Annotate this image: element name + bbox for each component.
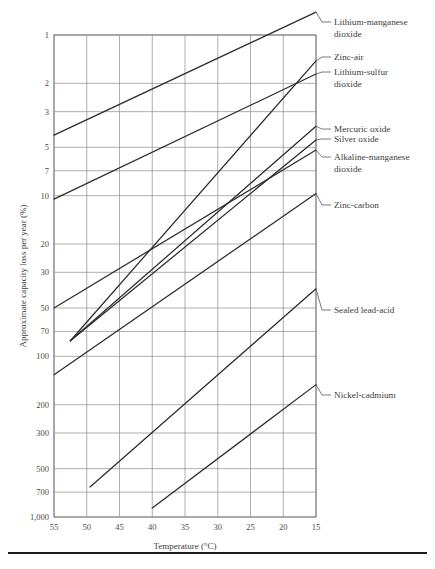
series-line [90,289,316,487]
y-tick-label: 200 [36,400,49,410]
y-tick-label: 1 [45,30,49,40]
series-label: Lithium-sulfur [334,67,388,77]
y-axis-title: Approximate capacity loss per year (%) [18,204,28,347]
y-tick-label: 3 [45,107,49,117]
series-label: Sealed lead-acid [334,305,395,315]
y-tick-label: 70 [41,326,50,336]
x-tick-label: 55 [50,522,59,532]
series-leader-lines-layer [316,12,331,395]
x-axis-title: Temperature (°C) [153,541,216,551]
leader-line [316,126,322,129]
series-label: Zinc-carbon [334,200,379,210]
leader-line [316,72,322,74]
grid-layer [54,35,316,517]
series-line [70,140,316,341]
series-label: Alkaline-manganese [334,152,410,162]
y-tick-label: 100 [36,351,49,361]
y-tick-label: 7 [45,166,49,176]
y-tick-label: 30 [41,267,50,277]
y-tick-label: 500 [36,464,49,474]
x-tick-label: 25 [246,522,255,532]
series-label: dioxide [334,164,362,174]
y-axis-tick-labels: 1235710203050701002003005007001,000 [30,30,49,522]
y-tick-label: 20 [41,239,50,249]
series-label: Mercuric oxide [334,124,390,134]
y-tick-label: 10 [41,191,50,201]
series-line [152,385,316,508]
series-label: dioxide [334,79,362,89]
x-tick-label: 15 [312,522,321,532]
series-label: Lithium-manganese [334,17,407,27]
capacity-loss-chart: 1235710203050701002003005007001,000 5550… [0,0,435,569]
series-label: Zinc-air [334,52,364,62]
leader-line [316,150,322,157]
series-line [70,61,316,341]
y-tick-label: 300 [36,428,49,438]
y-tick-label: 5 [45,142,49,152]
leader-line [316,289,322,310]
y-tick-label: 700 [36,487,49,497]
series-labels-layer: Lithium-manganesedioxideZinc-airLithium-… [334,17,410,400]
leader-line [316,57,322,61]
y-tick-label: 1,000 [30,512,49,522]
y-tick-label: 50 [41,303,50,313]
figure-container: 1235710203050701002003005007001,000 5550… [0,0,435,569]
series-label: Silver oxide [334,134,379,144]
x-tick-label: 35 [181,522,190,532]
y-tick-label: 2 [45,78,49,88]
x-tick-label: 40 [148,522,157,532]
x-tick-label: 45 [115,522,124,532]
series-label: Nickel-cadmium [334,390,396,400]
leader-line [316,385,322,395]
x-tick-label: 50 [83,522,92,532]
leader-line [316,139,322,140]
series-label: dioxide [334,29,362,39]
x-tick-label: 30 [214,522,223,532]
leader-line [316,194,322,205]
series-line [70,126,316,340]
x-axis-tick-labels: 555045403530252015 [50,522,321,532]
leader-line [316,12,322,22]
x-tick-label: 20 [279,522,288,532]
